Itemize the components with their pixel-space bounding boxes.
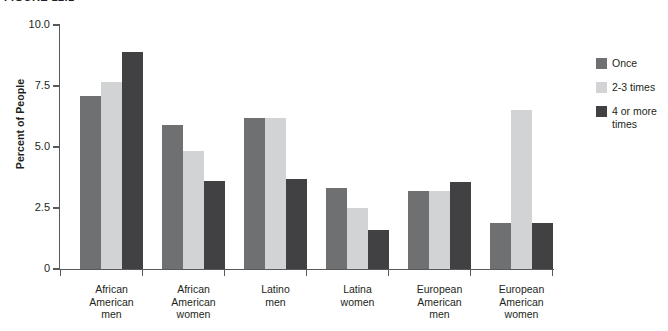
legend-item: 4 or more times [596, 105, 668, 130]
x-axis-category-label: Latinawomen [313, 283, 403, 308]
category-label-line: European [395, 283, 485, 296]
category-label-line: men [395, 308, 485, 321]
x-axis-tick [60, 270, 61, 276]
category-label-line: African [149, 283, 239, 296]
bar [368, 230, 389, 269]
category-label-line: Latina [313, 283, 403, 296]
legend-item: Once [596, 57, 668, 70]
x-axis-tick [470, 270, 471, 276]
bar [204, 181, 225, 269]
x-axis-category-label: AfricanAmericanwomen [149, 283, 239, 321]
y-axis-tick-label: 5.0 [10, 140, 50, 152]
category-label-line: men [67, 308, 157, 321]
bar [490, 223, 511, 269]
x-axis-tick [224, 270, 225, 276]
legend-item-label: 4 or more times [612, 105, 668, 130]
y-axis-tick [53, 24, 59, 25]
y-axis-tick-label: 7.5 [10, 79, 50, 91]
category-label-line: American [67, 296, 157, 309]
bar [265, 118, 286, 269]
category-label-line: women [477, 308, 567, 321]
legend-swatch-icon [596, 82, 607, 93]
category-label-line: American [477, 296, 567, 309]
category-label-line: women [149, 308, 239, 321]
figure-root: FIGURE 12.1 Percent of People 02.55.07.5… [0, 0, 668, 331]
x-axis-category-label: EuropeanAmericanmen [395, 283, 485, 321]
y-axis-tick-label: 0 [10, 262, 50, 274]
legend-swatch-icon [596, 106, 607, 117]
legend-item-label: Once [612, 57, 668, 70]
figure-caption: FIGURE 12.1 [4, 0, 74, 3]
y-axis-tick [53, 207, 59, 208]
x-axis-tick [142, 270, 143, 276]
bar [101, 82, 122, 269]
category-label-line: American [395, 296, 485, 309]
category-label-line: Latino [231, 283, 321, 296]
y-axis-tick [53, 146, 59, 147]
x-axis-tick [306, 270, 307, 276]
bar [429, 191, 450, 269]
category-label-line: African [67, 283, 157, 296]
x-axis-tick [388, 270, 389, 276]
legend-item-label: 2-3 times [612, 81, 668, 94]
legend-swatch-icon [596, 58, 607, 69]
bar [511, 110, 532, 269]
bar [80, 96, 101, 269]
legend-item: 2-3 times [596, 81, 668, 94]
bar [286, 179, 307, 269]
x-axis-tick [552, 270, 553, 276]
category-label-line: European [477, 283, 567, 296]
bar [244, 118, 265, 269]
y-axis-tick-label: 10.0 [10, 18, 50, 30]
bar [326, 188, 347, 269]
bar [408, 191, 429, 269]
category-label-line: American [149, 296, 239, 309]
x-axis-category-label: AfricanAmericanmen [67, 283, 157, 321]
category-label-line: men [231, 296, 321, 309]
bar [183, 151, 204, 269]
chart-legend: Once2-3 times4 or more times [596, 57, 668, 141]
bar [450, 182, 471, 269]
bar [532, 223, 553, 269]
y-axis-tick-label: 2.5 [10, 201, 50, 213]
category-label-line: women [313, 296, 403, 309]
x-axis-category-label: EuropeanAmericanwomen [477, 283, 567, 321]
bar [122, 52, 143, 269]
y-axis-tick [53, 268, 59, 269]
bar [347, 208, 368, 269]
y-axis-tick [53, 85, 59, 86]
x-axis-category-label: Latinomen [231, 283, 321, 308]
plot-area [60, 25, 530, 269]
bar [162, 125, 183, 269]
